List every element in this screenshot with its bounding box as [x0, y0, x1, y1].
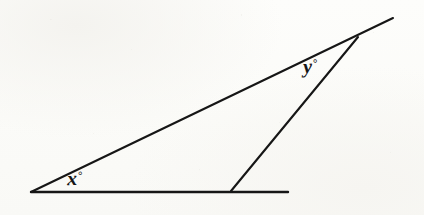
angle-label-x: x°: [67, 168, 83, 189]
slanted-line: [231, 37, 358, 191]
angle-x-degree-symbol: °: [78, 168, 83, 180]
angle-x-variable: x: [67, 167, 78, 189]
geometry-figure: x° y°: [0, 0, 424, 215]
long-diagonal-line: [31, 18, 393, 192]
angle-label-y: y°: [302, 56, 318, 77]
angle-y-variable: y: [302, 55, 312, 77]
diagram-canvas: [0, 0, 424, 215]
angle-y-degree-symbol: °: [313, 56, 318, 68]
